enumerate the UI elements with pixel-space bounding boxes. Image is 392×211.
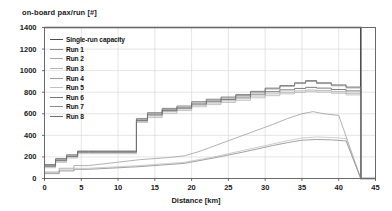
legend-label: Run 7 [66, 103, 84, 110]
legend-label: Run 1 [66, 46, 84, 53]
legend-label: Run 5 [66, 84, 84, 91]
x-tick-label: 30 [253, 183, 277, 192]
legend-swatch-icon [50, 116, 63, 117]
legend-item-run-5[interactable]: Run 5 [50, 83, 125, 93]
legend-item-run-7[interactable]: Run 7 [50, 102, 125, 112]
x-tick-label: 10 [106, 183, 130, 192]
legend-label: Run 6 [66, 94, 84, 101]
x-tick-label: 25 [216, 183, 240, 192]
legend-label: Single-run capacity [66, 36, 125, 43]
x-tick-label: 5 [69, 183, 93, 192]
y-tick-label: 1000 [7, 66, 37, 75]
legend-item-single-run-capacity[interactable]: Single-run capacity [50, 35, 125, 45]
x-axis-title: Distance [km] [0, 196, 392, 205]
legend-item-run-1[interactable]: Run 1 [50, 45, 125, 55]
legend-item-run-4[interactable]: Run 4 [50, 73, 125, 83]
legend-swatch-icon [50, 106, 63, 107]
legend-swatch-icon [50, 97, 63, 98]
legend-label: Run 8 [66, 113, 84, 120]
x-tick-label: 0 [33, 183, 57, 192]
legend-swatch-icon [50, 49, 63, 50]
x-tick-label: 15 [143, 183, 167, 192]
legend-label: Run 3 [66, 65, 84, 72]
legend-item-run-8[interactable]: Run 8 [50, 112, 125, 122]
y-tick-label: 1400 [7, 23, 37, 32]
y-tick-label: 600 [7, 109, 37, 118]
x-tick-label: 45 [364, 183, 388, 192]
legend-swatch-icon [50, 39, 63, 40]
x-tick-label: 40 [327, 183, 351, 192]
y-tick-label: 800 [7, 88, 37, 97]
y-tick-label: 200 [7, 152, 37, 161]
chart-figure: on-board pax/run [#] Single-run capacity… [0, 0, 392, 211]
legend-item-run-3[interactable]: Run 3 [50, 64, 125, 74]
chart-legend: Single-run capacityRun 1Run 2Run 3Run 4R… [50, 35, 125, 121]
legend-swatch-icon [50, 78, 63, 79]
x-tick-label: 35 [290, 183, 314, 192]
x-tick-label: 20 [180, 183, 204, 192]
legend-item-run-2[interactable]: Run 2 [50, 54, 125, 64]
y-tick-label: 1200 [7, 45, 37, 54]
legend-item-run-6[interactable]: Run 6 [50, 93, 125, 103]
legend-swatch-icon [50, 58, 63, 59]
legend-label: Run 2 [66, 55, 84, 62]
legend-swatch-icon [50, 87, 63, 88]
legend-swatch-icon [50, 68, 63, 69]
legend-label: Run 4 [66, 75, 84, 82]
y-tick-label: 400 [7, 131, 37, 140]
